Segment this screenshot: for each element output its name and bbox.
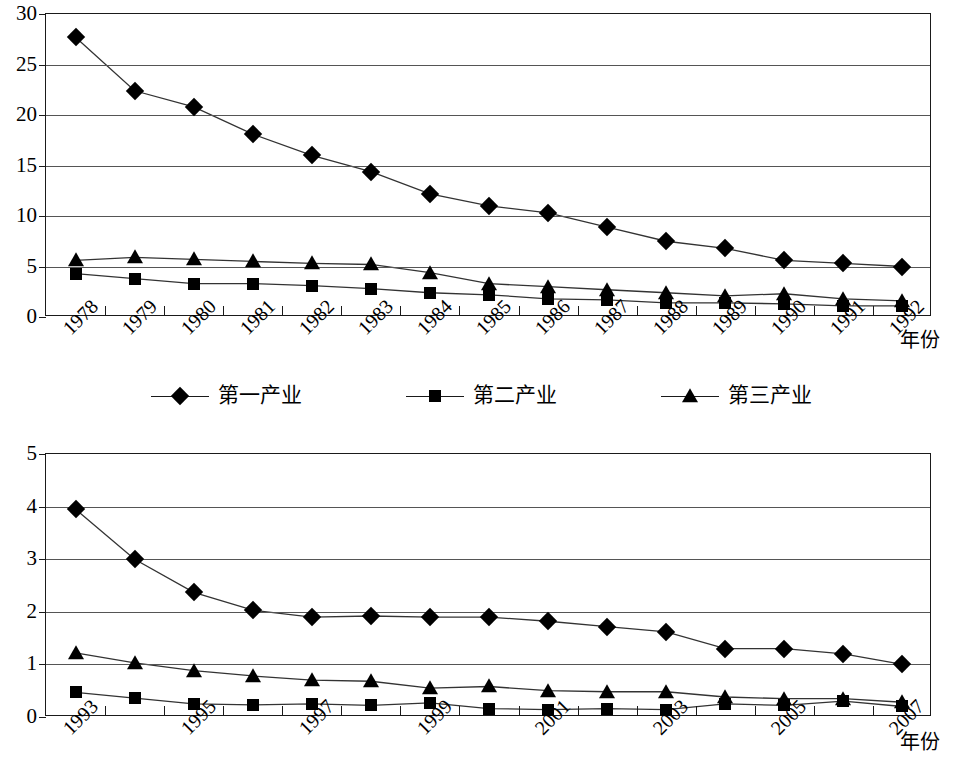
x-axis-title-bottom: 年份	[900, 732, 940, 752]
x-tick-mark	[696, 706, 697, 715]
triangle-marker-icon	[186, 252, 202, 266]
gridline	[46, 664, 930, 665]
x-tick-mark	[696, 306, 697, 315]
square-marker-icon	[306, 280, 318, 292]
square-marker-icon	[365, 283, 377, 295]
x-tick-mark	[459, 306, 460, 315]
x-tick-mark	[164, 306, 165, 315]
x-tick-mark	[400, 306, 401, 315]
triangle-marker-icon	[127, 655, 143, 669]
square-marker-icon	[483, 289, 495, 301]
square-marker-icon	[247, 278, 259, 290]
square-marker-icon	[247, 699, 259, 711]
y-axis-labels-top: 051015202530	[0, 13, 37, 316]
y-tick-mark	[39, 65, 46, 66]
diamond-marker-icon	[170, 386, 188, 404]
gridline	[46, 65, 930, 66]
x-tick-mark	[341, 306, 342, 315]
x-tick-mark	[578, 706, 579, 715]
legend-item[interactable]: 第二产业	[406, 385, 557, 406]
x-tick-mark	[164, 706, 165, 715]
triangle-marker-icon	[540, 279, 556, 293]
y-tick-label: 2	[27, 600, 38, 621]
triangle-marker-icon	[304, 672, 320, 686]
triangle-marker-icon	[422, 265, 438, 279]
x-tick-mark	[519, 706, 520, 715]
square-marker-icon	[483, 703, 495, 715]
x-tick-mark	[755, 306, 756, 315]
square-marker-icon	[601, 703, 613, 715]
x-tick-mark	[459, 706, 460, 715]
triangle-marker-icon	[304, 256, 320, 270]
x-tick-mark	[637, 706, 638, 715]
x-tick-mark	[282, 306, 283, 315]
triangle-marker-icon	[717, 689, 733, 703]
y-tick-label: 1	[27, 653, 38, 674]
y-tick-mark	[39, 267, 46, 268]
gridline	[46, 559, 930, 560]
y-tick-mark	[39, 717, 46, 718]
plot-area-bottom	[45, 453, 931, 716]
y-tick-mark	[39, 559, 46, 560]
series-line	[76, 37, 903, 266]
y-tick-label: 3	[27, 548, 38, 569]
legend-key	[661, 386, 719, 406]
y-tick-mark	[39, 507, 46, 508]
triangle-marker-icon	[186, 663, 202, 677]
x-tick-mark	[873, 706, 874, 715]
y-tick-mark	[39, 14, 46, 15]
y-tick-mark	[39, 115, 46, 116]
gridline	[46, 115, 930, 116]
square-marker-icon	[129, 273, 141, 285]
y-tick-mark	[39, 216, 46, 217]
triangle-marker-icon	[245, 668, 261, 682]
legend-label: 第二产业	[473, 385, 557, 406]
x-tick-mark	[223, 306, 224, 315]
y-tick-mark	[39, 612, 46, 613]
square-marker-icon	[365, 699, 377, 711]
triangle-marker-icon	[481, 276, 497, 290]
y-tick-label: 10	[16, 205, 37, 226]
triangle-marker-icon	[363, 257, 379, 271]
gridline	[46, 267, 930, 268]
legend-label: 第一产业	[218, 385, 302, 406]
y-tick-mark	[39, 454, 46, 455]
x-axis-title-top: 年份	[900, 330, 940, 350]
y-tick-label: 30	[16, 3, 37, 24]
triangle-marker-icon	[540, 683, 556, 697]
triangle-marker-icon	[599, 684, 615, 698]
y-tick-label: 4	[27, 495, 38, 516]
x-tick-mark	[341, 706, 342, 715]
series-lines-bottom	[46, 454, 932, 717]
square-marker-icon	[70, 686, 82, 698]
square-marker-icon	[70, 268, 82, 280]
triangle-marker-icon	[363, 674, 379, 688]
triangle-marker-icon	[68, 253, 84, 267]
x-tick-mark	[105, 706, 106, 715]
x-tick-mark	[814, 306, 815, 315]
square-marker-icon	[188, 278, 200, 290]
triangle-marker-icon	[835, 691, 851, 705]
legend-item[interactable]: 第一产业	[151, 385, 302, 406]
triangle-marker-icon	[127, 250, 143, 264]
x-tick-mark	[223, 706, 224, 715]
y-axis-labels-bottom: 012345	[0, 453, 37, 716]
y-tick-label: 20	[16, 104, 37, 125]
triangle-marker-icon	[658, 285, 674, 299]
chart-1978-1992: 051015202530 197819791980198119821983198…	[0, 0, 962, 430]
legend-item[interactable]: 第三产业	[661, 385, 812, 406]
y-tick-mark	[39, 664, 46, 665]
triangle-marker-icon	[68, 645, 84, 659]
x-tick-mark	[873, 306, 874, 315]
y-tick-label: 25	[16, 53, 37, 74]
x-tick-mark	[637, 306, 638, 315]
y-tick-label: 0	[27, 706, 38, 727]
triangle-marker-icon	[599, 282, 615, 296]
y-tick-label: 0	[27, 306, 38, 327]
chart-page: 051015202530 197819791980198119821983198…	[0, 0, 962, 772]
gridline	[46, 216, 930, 217]
x-tick-mark	[755, 706, 756, 715]
triangle-marker-icon	[658, 684, 674, 698]
y-tick-mark	[39, 166, 46, 167]
legend-top: 第一产业第二产业第三产业	[0, 385, 962, 406]
